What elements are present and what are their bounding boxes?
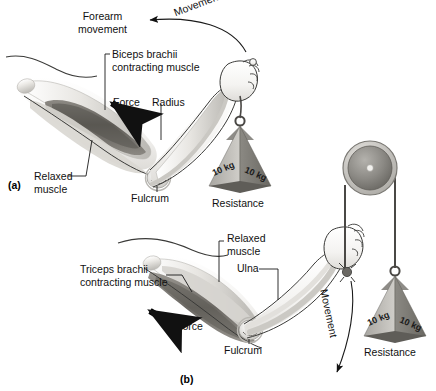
weight-b: 10 kg 10 kg: [364, 266, 426, 343]
label-force-b: Force: [176, 320, 203, 333]
label-forearm-movement: Forearm movement: [78, 10, 127, 35]
leader-biceps-bracket: [105, 54, 110, 62]
label-relaxed-muscle-a: Relaxed muscle: [34, 170, 73, 195]
label-resistance-a: Resistance: [212, 197, 264, 210]
label-fulcrum-b: Fulcrum: [224, 344, 262, 357]
anatomy-illustration: 10 kg 10 kg: [0, 0, 436, 391]
panel-label-b: (b): [180, 373, 193, 385]
figure-canvas: 10 kg 10 kg: [0, 0, 436, 391]
label-biceps-brachii: Biceps brachii contracting muscle: [112, 48, 200, 73]
movement-arc-b: [337, 281, 353, 372]
leader-ulna: [259, 269, 278, 300]
label-ulna: Ulna: [237, 262, 259, 275]
label-radius: Radius: [152, 96, 185, 109]
shoulder-contour: [6, 56, 97, 77]
label-relaxed-muscle-b: Relaxed muscle: [227, 232, 266, 257]
label-resistance-b: Resistance: [364, 346, 416, 359]
label-force-a: Force: [113, 96, 140, 109]
fist-a: [220, 59, 259, 102]
weight-cord-a: [240, 96, 241, 118]
label-fulcrum-a: Fulcrum: [131, 192, 169, 205]
label-triceps-brachii: Triceps brachii contracting muscle: [80, 263, 168, 288]
leader-relaxed-b-bracket: [219, 241, 224, 250]
pulley-hub: [367, 165, 374, 172]
shoulder-contour-b: [118, 239, 228, 257]
panel-label-a: (a): [8, 179, 21, 191]
force-arrow-b: [150, 311, 174, 325]
